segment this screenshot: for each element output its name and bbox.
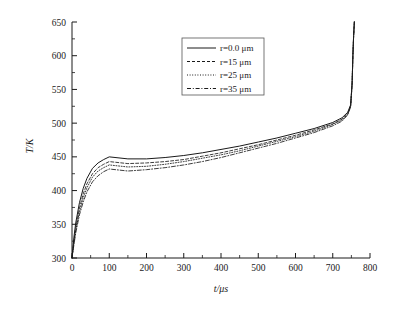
y-tick-label: 450	[52, 152, 67, 162]
x-tick-label: 0	[70, 263, 75, 273]
y-tick-label: 300	[52, 254, 67, 264]
y-tick-label: 400	[52, 186, 67, 196]
x-tick-label: 300	[177, 263, 192, 273]
x-tick-label: 700	[326, 263, 341, 273]
y-tick-label: 500	[52, 119, 67, 129]
y-axis-tick-labels: 300350400450500550600650	[52, 18, 67, 264]
x-axis-title: t/μs	[214, 283, 229, 294]
y-tick-label: 650	[52, 18, 67, 28]
x-axis-tick-labels: 0100200300400500600700800	[70, 263, 378, 273]
y-tick-label: 350	[52, 220, 67, 230]
y-tick-label: 550	[52, 85, 67, 95]
x-tick-label: 800	[363, 263, 378, 273]
y-axis-title: T/K	[24, 137, 35, 153]
legend-label-3: r=25 μm	[220, 70, 251, 80]
x-tick-label: 500	[251, 263, 266, 273]
chart-legend: r=0.0 μmr=15 μmr=25 μmr=35 μm	[182, 38, 264, 95]
x-tick-label: 200	[139, 263, 154, 273]
temperature-vs-time-chart: 0100200300400500600700800 30035040045050…	[0, 0, 399, 309]
legend-label-1: r=0.0 μm	[220, 43, 253, 53]
y-tick-label: 600	[52, 51, 67, 61]
legend-label-4: r=35 μm	[220, 84, 251, 94]
x-tick-label: 400	[214, 263, 229, 273]
x-tick-label: 100	[102, 263, 117, 273]
chart-figure: 0100200300400500600700800 30035040045050…	[0, 0, 399, 309]
x-axis-ticks	[72, 253, 370, 258]
legend-label-2: r=15 μm	[220, 57, 251, 67]
x-tick-label: 600	[288, 263, 303, 273]
